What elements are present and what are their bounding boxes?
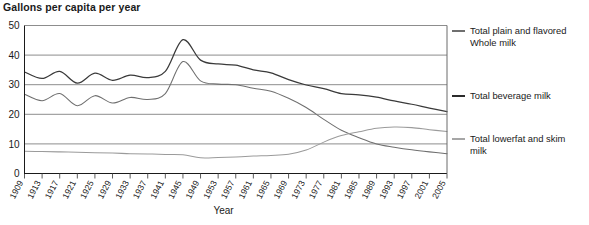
svg-text:1961: 1961 xyxy=(236,179,254,201)
svg-text:1949: 1949 xyxy=(183,179,201,201)
svg-text:30: 30 xyxy=(8,79,20,90)
svg-text:1969: 1969 xyxy=(272,179,290,201)
svg-text:1925: 1925 xyxy=(78,179,96,201)
svg-text:50: 50 xyxy=(8,20,20,31)
legend-label-beverage-milk: Total beverage milk xyxy=(470,90,551,102)
legend-label-lowerfat-milk: Total lowerfat and skim milk xyxy=(470,133,565,156)
svg-text:1985: 1985 xyxy=(342,179,360,201)
svg-text:1933: 1933 xyxy=(113,179,131,201)
chart-container: Gallons per capita per year 01020304050 … xyxy=(0,0,589,225)
y-axis-tick-labels: 01020304050 xyxy=(8,20,20,179)
data-series-lines xyxy=(25,40,448,158)
svg-text:1981: 1981 xyxy=(324,179,342,201)
legend-line-whole-milk-icon xyxy=(452,30,465,32)
svg-text:40: 40 xyxy=(8,50,20,61)
svg-text:2005: 2005 xyxy=(430,179,448,201)
svg-text:1909: 1909 xyxy=(7,179,25,201)
svg-text:1993: 1993 xyxy=(377,179,395,201)
legend-label-whole-milk: Total plain and flavored Whole milk xyxy=(470,25,566,48)
svg-text:1945: 1945 xyxy=(166,179,184,201)
x-axis-title: Year xyxy=(0,205,447,216)
svg-text:1989: 1989 xyxy=(360,179,378,201)
svg-text:1953: 1953 xyxy=(201,179,219,201)
svg-text:2001: 2001 xyxy=(412,179,430,201)
legend-item-lowerfat-milk: Total lowerfat and skim milk xyxy=(452,133,565,156)
svg-text:1937: 1937 xyxy=(131,179,149,201)
svg-text:1921: 1921 xyxy=(60,179,78,201)
legend-item-beverage-milk: Total beverage milk xyxy=(452,90,551,102)
legend-item-whole-milk: Total plain and flavored Whole milk xyxy=(452,25,566,48)
svg-text:1941: 1941 xyxy=(148,179,166,201)
legend-line-beverage-milk-icon xyxy=(452,95,465,97)
plot-area: 01020304050 1909191319171921192519291933… xyxy=(0,0,455,205)
svg-text:1957: 1957 xyxy=(219,179,237,201)
svg-text:1977: 1977 xyxy=(307,179,325,201)
svg-text:1913: 1913 xyxy=(25,179,43,201)
svg-text:0: 0 xyxy=(14,168,20,179)
svg-text:1929: 1929 xyxy=(95,179,113,201)
svg-text:1973: 1973 xyxy=(289,179,307,201)
svg-text:1965: 1965 xyxy=(254,179,272,201)
legend-line-lowerfat-milk-icon xyxy=(452,138,465,140)
svg-text:20: 20 xyxy=(8,109,20,120)
svg-text:1997: 1997 xyxy=(395,179,413,201)
x-axis-tick-labels: 1909191319171921192519291933193719411945… xyxy=(7,179,447,201)
x-axis-ticks xyxy=(25,174,448,179)
svg-text:10: 10 xyxy=(8,139,20,150)
svg-text:1917: 1917 xyxy=(43,179,61,201)
